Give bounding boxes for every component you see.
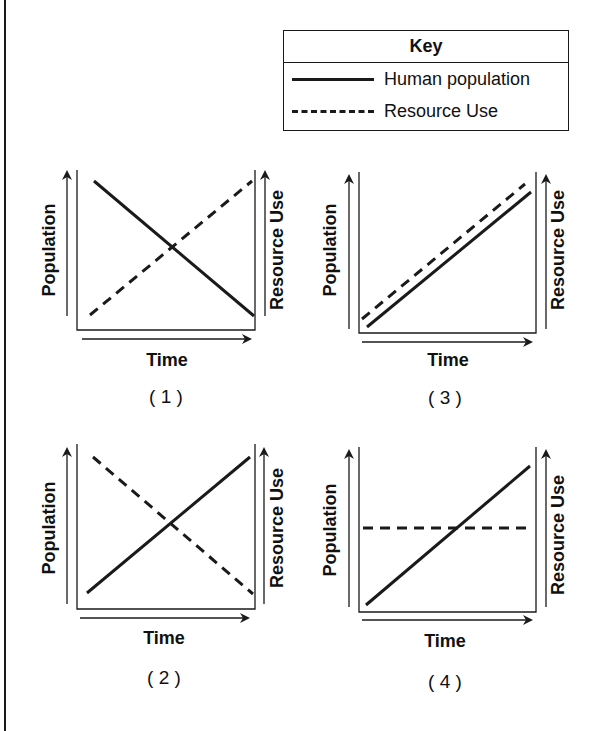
y2-axis-label: Resource Use (548, 190, 568, 310)
y-axis-label: Population (39, 482, 59, 575)
graph-caption: ( 1 ) (149, 386, 183, 407)
graph-2: Population Resource Use Time ( 2 ) (39, 444, 287, 688)
y-axis-label: Population (320, 204, 340, 297)
human-population-line (94, 181, 254, 316)
graph-4: Population Resource Use Time ( 4 ) (320, 447, 568, 692)
resource-use-line (362, 184, 525, 319)
human-population-line (87, 457, 250, 593)
y-axis-label: Population (320, 484, 340, 577)
graph-3: Population Resource Use Time ( 3 ) (320, 172, 568, 408)
graphs-canvas: Population Resource Use Time ( 1 ) Popul… (0, 0, 598, 731)
y-axis-label: Population (39, 204, 59, 297)
graph-1: Population Resource Use Time ( 1 ) (39, 170, 287, 407)
x-axis-label: Time (143, 628, 185, 648)
y2-axis-label: Resource Use (267, 468, 287, 588)
x-axis-label: Time (146, 350, 188, 370)
resource-use-line (93, 457, 253, 594)
human-population-line (366, 466, 530, 605)
graph-caption: ( 3 ) (428, 387, 462, 408)
human-population-line (367, 192, 531, 327)
plot-frame (77, 170, 255, 330)
graph-caption: ( 2 ) (147, 667, 181, 688)
x-axis-label: Time (424, 631, 466, 651)
y2-axis-label: Resource Use (548, 475, 568, 595)
y2-axis-label: Resource Use (267, 190, 287, 310)
x-axis-label: Time (427, 350, 469, 370)
graph-caption: ( 4 ) (428, 671, 462, 692)
